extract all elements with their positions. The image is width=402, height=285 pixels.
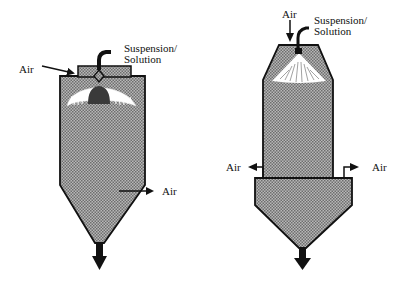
left-dryer-air-disperser-cap: [78, 66, 131, 77]
right-dryer-cone: [255, 178, 352, 248]
left-feed-label-line2: Solution: [124, 53, 162, 65]
left-air-inlet-label: Air: [19, 63, 34, 75]
left-product-discharge-arrow-icon: [92, 243, 107, 270]
spray-dryer-diagram: Air Suspension/ Solution Air: [0, 0, 402, 285]
left-air-outlet-label: Air: [162, 185, 177, 197]
right-spray-nozzle-icon: [295, 48, 302, 54]
right-spray-dryer: Air Suspension/ Solution Air Air: [226, 8, 387, 270]
right-air-outlet-right-label: Air: [372, 161, 387, 173]
left-air-inlet-arrow-icon: [42, 66, 73, 73]
left-spray-dryer: Air Suspension/ Solution Air: [19, 42, 178, 270]
right-feed-label-line2: Solution: [314, 25, 352, 37]
right-product-discharge-arrow-icon: [294, 247, 311, 270]
right-air-inlet-arrow-icon: [286, 20, 294, 42]
right-air-outlet-left-label: Air: [226, 161, 241, 173]
right-air-outlet-right-arrow-icon: [344, 163, 359, 178]
right-air-outlet-left-arrow-icon: [248, 163, 263, 178]
right-air-inlet-label: Air: [282, 8, 297, 20]
